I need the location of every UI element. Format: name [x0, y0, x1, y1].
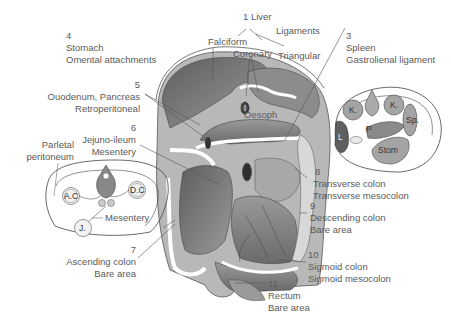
descending-colon-label: 9 Descending colon Bare area	[310, 200, 386, 236]
jejunum-inset-label: J.	[79, 224, 86, 233]
sigmoid-colon-label: 10 Sigmoid colon Sigmoid mesocolon	[308, 249, 391, 285]
ascending-colon-attachment: Bare area	[56, 268, 136, 280]
sigmoid-colon-name: Sigmoid colon	[308, 261, 391, 273]
transverse-colon-number: 8	[315, 166, 409, 178]
duodenum-number: 5	[46, 79, 140, 91]
right-inset-cross-section	[335, 87, 441, 172]
transverse-colon-name: Transverse colon	[313, 178, 409, 190]
parietal-peritoneum-label: Parletal peritoneum	[20, 139, 74, 163]
kidney-right-label: K.	[390, 101, 398, 110]
descending-colon-number: 9	[310, 200, 386, 212]
jejunoileum-label: 6 Jejuno-ileum Mesentery	[70, 122, 136, 158]
descending-colon-attachment: Bare area	[310, 224, 386, 236]
stomach-attachment: Omental attachments	[66, 54, 156, 66]
rectum-name: Rectum	[268, 290, 310, 302]
spleen-inset-label: Sp.	[406, 116, 419, 125]
ascending-colon-label: 7 Ascending colon Bare area	[56, 244, 136, 280]
ascending-colon-inset-label: A.C	[64, 192, 78, 201]
spleen-label: 3 Spleen Gastrolienal ligament	[346, 30, 435, 66]
liver-name: Liver	[251, 11, 272, 22]
ascending-colon-name: Ascending colon	[56, 256, 136, 268]
rectum-label: 11 Rectum Bare area	[268, 278, 310, 314]
sigmoid-colon-number: 10	[308, 249, 391, 261]
stomach-label: 4 Stomach Omental attachments	[66, 30, 156, 66]
jejunoileum-number: 6	[70, 122, 136, 134]
duodenum-attachment: Retroperitoneal	[46, 103, 140, 115]
inset-mesentery-label: Mesentery	[105, 212, 149, 224]
pancreas-inset-label: P	[366, 125, 372, 134]
stomach-inset-label: Stom	[378, 146, 398, 155]
stomach-name: Stomach	[66, 42, 156, 54]
jejunoileum-name: Jejuno-ileum	[70, 134, 136, 146]
duodenum-label: 5 Ouodenum, Pancreas Retroperitoneal	[46, 79, 140, 115]
falciform-label: Falciform	[208, 36, 247, 48]
jejunoileum-attachment: Mesentery	[70, 146, 136, 158]
oesophagus-label: 2 Oesoph	[240, 100, 277, 121]
oesophagus-name: Oesoph	[244, 109, 277, 121]
rectum-attachment: Bare area	[268, 302, 310, 314]
kidney-left-label: K.	[349, 106, 357, 115]
sigmoid-colon-attachment: Sigmoid mesocolon	[308, 273, 391, 285]
descending-colon-name: Descending colon	[310, 212, 386, 224]
spleen-name: Spleen	[346, 42, 435, 54]
rectum-number: 11	[268, 278, 310, 290]
coronary-label: Coronary	[233, 48, 272, 60]
parietal-line1: Parletal	[20, 139, 74, 151]
stomach-number: 4	[66, 30, 156, 42]
triangular-label: Triangular	[278, 50, 320, 62]
ascending-colon-number: 7	[56, 244, 136, 256]
transverse-colon-opening	[243, 163, 252, 181]
spleen-number: 3	[346, 30, 435, 42]
ligaments-label: Ligaments	[276, 25, 320, 37]
duodenum-name: Ouodenum, Pancreas	[46, 91, 140, 103]
liver-number: 1	[243, 11, 248, 22]
transverse-colon-label: 8 Transverse colon Transverse mesocolon	[313, 166, 409, 202]
descending-colon-inset-label: D.C	[130, 186, 145, 195]
liver-inset-label: L	[338, 133, 343, 142]
liver-label: 1 Liver	[243, 11, 272, 23]
ascending-colon-area	[179, 166, 232, 255]
parietal-line2: peritoneum	[20, 151, 74, 163]
spleen-attachment: Gastrolienal ligament	[346, 54, 435, 66]
